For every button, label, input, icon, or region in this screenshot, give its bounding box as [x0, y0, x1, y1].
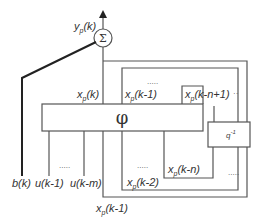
u-k1-label: u(k-1) [35, 177, 64, 189]
sigma-symbol: Σ [99, 32, 107, 45]
bias-label: b(k) [12, 177, 31, 189]
block-diagram: Σ φ q-1 yp(k) xp(k) xp(k-1) ..... xp(k-n… [0, 0, 263, 224]
xp-kn-label: xp(k-n) [167, 163, 200, 178]
output-arrow-icon [99, 10, 107, 18]
phi-symbol: φ [116, 107, 129, 128]
xp-k-label: xp(k) [76, 88, 100, 103]
xp-k1-bottom-label: xp(k-1) [95, 202, 128, 217]
ellipsis-top: ..... [147, 77, 158, 86]
u-km-label: u(k-m) [70, 177, 102, 189]
ellipsis-bottom: ..... [137, 161, 148, 170]
ellipsis-right-bottom: ..... [228, 168, 239, 177]
ellipsis-right-top: ·· [233, 89, 238, 98]
ellipsis-inputs: ..... [59, 161, 70, 170]
xp-k2-label: xp(k-2) [126, 176, 159, 191]
xp-k1-top-label: xp(k-1) [124, 88, 157, 103]
xp-kn1-label: xp(k-n+1) [184, 88, 230, 103]
output-label: yp(k) [73, 20, 97, 35]
